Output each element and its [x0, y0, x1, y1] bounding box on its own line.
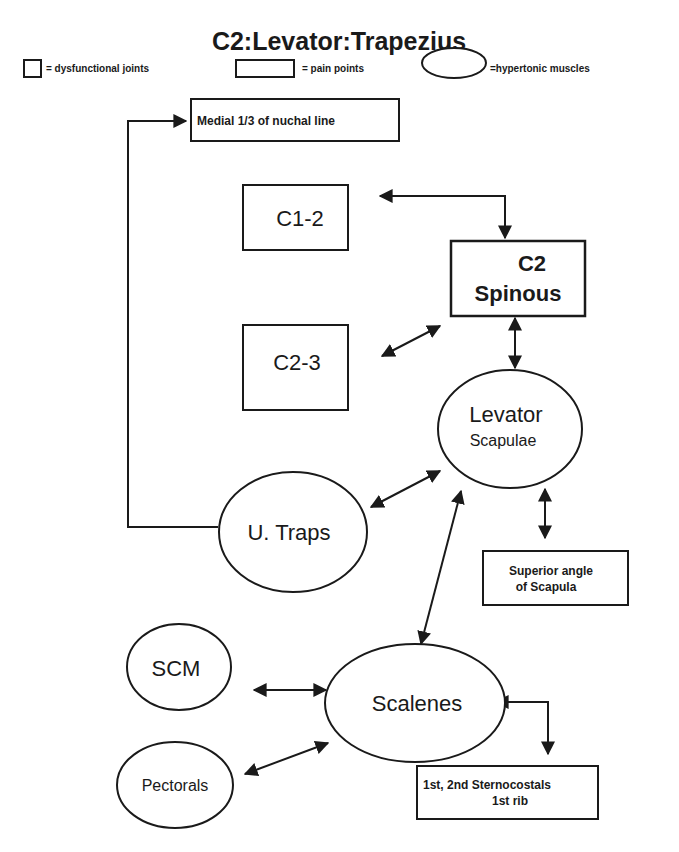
edge-c12-c2spinous: [380, 196, 505, 238]
node-levator-line1: Levator: [469, 402, 542, 427]
node-scm-label: SCM: [152, 656, 201, 681]
node-sterno-line2: 1st rib: [492, 794, 528, 808]
node-pectorals-label: Pectorals: [142, 777, 209, 794]
node-scm: SCM: [127, 624, 231, 710]
diagram-canvas: C2:Levator:Trapezius = dysfunctional joi…: [0, 0, 679, 852]
node-nuchal-label: Medial 1/3 of nuchal line: [197, 114, 335, 128]
node-sterno-line1: 1st, 2nd Sternocostals: [423, 778, 551, 792]
node-levator-line2: Scapulae: [470, 432, 537, 449]
node-superior-line1: Superior angle: [509, 564, 593, 578]
node-u-traps-label: U. Traps: [247, 520, 330, 545]
node-pectorals: Pectorals: [117, 742, 233, 828]
node-scalenes-label: Scalenes: [372, 691, 463, 716]
node-nuchal-line: Medial 1/3 of nuchal line: [191, 99, 399, 141]
node-c2-3-label: C2-3: [273, 350, 321, 375]
node-superior-line2: of Scapula: [516, 580, 577, 594]
edge-scalenes-levator: [421, 491, 461, 644]
legend-pain-label: = pain points: [302, 63, 364, 74]
diagram-title: C2:Levator:Trapezius: [212, 27, 466, 55]
legend-joints-label: = dysfunctional joints: [46, 63, 150, 74]
node-sternocostals: 1st, 2nd Sternocostals 1st rib: [417, 766, 598, 819]
node-c2-3: C2-3: [243, 325, 348, 410]
node-c1-2-label: C1-2: [276, 206, 324, 231]
edge-utraps-nuchal: [128, 121, 218, 527]
node-u-traps: U. Traps: [219, 472, 367, 592]
legend-pain-swatch: [236, 60, 294, 77]
edge-utraps-levator: [371, 471, 440, 507]
node-c1-2: C1-2: [243, 185, 348, 250]
node-superior-angle: Superior angle of Scapula: [483, 551, 628, 605]
legend-muscle-swatch: [422, 48, 486, 78]
node-levator-scapulae: Levator Scapulae: [438, 370, 582, 488]
node-c2-spinous-line2: Spinous: [475, 281, 562, 306]
node-c2-spinous-line1: C2: [518, 251, 546, 276]
node-c2-spinous: C2 Spinous: [451, 241, 585, 316]
legend-muscles-label: =hypertonic muscles: [490, 63, 590, 74]
legend-joint-swatch: [24, 60, 41, 77]
node-scalenes: Scalenes: [325, 644, 505, 762]
edge-c23-c2spinous: [382, 326, 440, 356]
edge-pectorals-scalenes: [245, 743, 328, 774]
